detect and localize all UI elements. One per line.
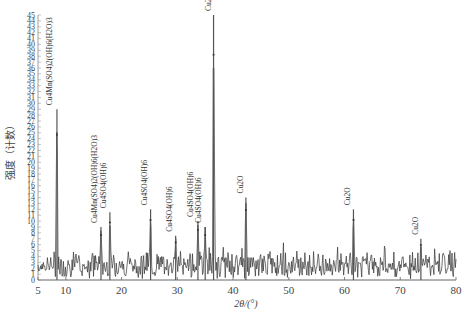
peak-label: Cu4SO4(OH)6 [140,160,149,206]
peak-label: Cu2O [411,216,420,235]
xrd-chart: 0123456789101112131415161718192021222324… [0,0,466,325]
peak-label: Cu4Mn(SO4)2(OH)6(H2O)3 [45,17,54,105]
peak-label: Cu4SO4(OH)6 [99,163,108,209]
x-tick-label: 20 [116,284,128,296]
peak-label: Cu2O [204,0,213,11]
peak-label: Cu4SO4(OH)6 [165,186,174,232]
x-tick-label: 50 [283,284,295,296]
peak-label: Cu2O [343,187,352,206]
peak-label: Cu4Mn(SO4)2(OH)6(H2O)3 [90,135,99,223]
x-axis-title: 2θ/(°) [234,298,258,310]
x-tick-label: 30 [172,284,184,296]
x-tick-label: 80 [451,284,463,296]
data-series [38,15,456,280]
x-tick-label: 70 [395,284,407,296]
x-tick-label: 40 [228,284,240,296]
x-tick-label: 5 [35,284,41,296]
x-tick-label: 10 [60,284,72,296]
peak-label: Cu4SO4(OH)6 [194,177,203,223]
peak-label: Cu2O [236,175,245,194]
x-tick-label: 60 [339,284,351,296]
y-axis-title: 强度（计数） [4,120,16,180]
y-tick-label: 45 [27,11,35,20]
peak-annotations: Cu4Mn(SO4)2(OH)6(H2O)3Cu4Mn(SO4)2(OH)6(H… [45,0,419,235]
